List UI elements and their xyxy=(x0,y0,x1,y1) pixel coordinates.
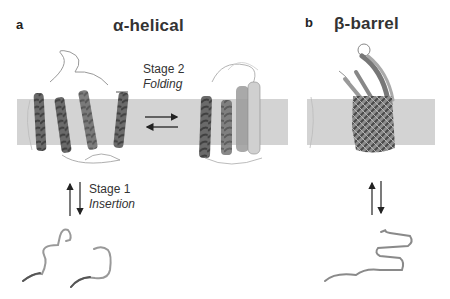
folded-helical-bundle-structure xyxy=(199,63,262,165)
unfolded-chain-panel-a xyxy=(23,230,111,287)
figure-graphics xyxy=(0,0,450,299)
stage-2-equilibrium-arrows xyxy=(145,117,178,127)
inserted-helices-structure xyxy=(27,51,128,164)
panel-b-equilibrium-arrows xyxy=(372,181,381,215)
unfolded-chain-panel-b xyxy=(325,230,412,281)
beta-barrel-structure xyxy=(310,44,395,153)
stage-1-equilibrium-arrows xyxy=(70,182,80,216)
